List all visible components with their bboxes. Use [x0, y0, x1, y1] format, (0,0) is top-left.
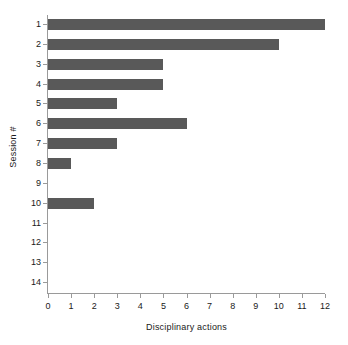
y-tick-4	[43, 84, 47, 85]
x-tick-2	[94, 294, 95, 298]
y-tick-label-7: 7	[36, 137, 41, 149]
bar-row-session-1: 1	[48, 15, 325, 35]
x-tick-10	[279, 294, 280, 298]
y-tick-label-5: 5	[36, 97, 41, 109]
y-tick-label-14: 14	[31, 276, 41, 288]
y-tick-label-1: 1	[36, 18, 41, 30]
bar-row-session-5: 5	[48, 94, 325, 114]
bar-row-session-8: 8	[48, 154, 325, 174]
bar-session-2	[48, 39, 279, 50]
x-tick-3	[117, 294, 118, 298]
bar-session-4	[48, 79, 163, 90]
x-tick-label-9: 9	[244, 301, 268, 311]
y-tick-label-11: 11	[32, 217, 41, 229]
y-tick-label-6: 6	[36, 117, 41, 129]
x-tick-label-5: 5	[151, 301, 175, 311]
y-tick-label-12: 12	[31, 236, 41, 248]
y-tick-3	[43, 64, 47, 65]
y-tick-2	[43, 44, 47, 45]
bar-session-6	[48, 118, 187, 129]
x-tick-0	[48, 294, 49, 298]
x-tick-label-3: 3	[105, 301, 129, 311]
x-tick-5	[163, 294, 164, 298]
bar-row-session-9: 9	[48, 174, 325, 194]
x-tick-12	[325, 294, 326, 298]
y-tick-13	[43, 262, 47, 263]
x-tick-9	[256, 294, 257, 298]
bar-chart-figure: Session # 1234567891011121314 0123456789…	[0, 0, 348, 345]
x-tick-label-2: 2	[82, 301, 106, 311]
bar-session-5	[48, 98, 117, 109]
y-tick-1	[43, 24, 47, 25]
y-tick-label-13: 13	[31, 256, 41, 268]
bar-session-1	[48, 19, 325, 30]
bar-row-session-13: 13	[48, 253, 325, 273]
y-tick-12	[43, 242, 47, 243]
x-tick-label-0: 0	[36, 301, 60, 311]
x-tick-1	[71, 294, 72, 298]
y-tick-8	[43, 163, 47, 164]
x-tick-label-10: 10	[267, 301, 291, 311]
bar-session-7	[48, 138, 117, 149]
bar-row-session-4: 4	[48, 75, 325, 95]
y-tick-11	[43, 223, 47, 224]
y-tick-9	[43, 183, 47, 184]
y-tick-label-2: 2	[36, 38, 41, 50]
x-tick-label-6: 6	[175, 301, 199, 311]
y-axis-title: Session #	[2, 0, 24, 293]
y-tick-label-9: 9	[36, 177, 41, 189]
x-tick-6	[187, 294, 188, 298]
x-tick-label-11: 11	[290, 301, 314, 311]
x-tick-11	[302, 294, 303, 298]
bar-row-session-7: 7	[48, 134, 325, 154]
x-tick-label-4: 4	[128, 301, 152, 311]
y-tick-label-10: 10	[31, 197, 41, 209]
x-tick-label-1: 1	[59, 301, 83, 311]
bar-row-session-2: 2	[48, 35, 325, 55]
y-tick-label-3: 3	[36, 58, 41, 70]
bar-row-session-12: 12	[48, 233, 325, 253]
y-tick-label-8: 8	[36, 157, 41, 169]
x-tick-label-8: 8	[221, 301, 245, 311]
bar-row-session-10: 10	[48, 194, 325, 214]
bar-row-session-14: 14	[48, 273, 325, 293]
bar-row-session-6: 6	[48, 114, 325, 134]
x-tick-8	[233, 294, 234, 298]
y-tick-label-4: 4	[36, 78, 41, 90]
x-tick-7	[210, 294, 211, 298]
y-axis-title-text: Session #	[8, 126, 18, 167]
bar-session-3	[48, 59, 163, 70]
y-tick-6	[43, 123, 47, 124]
x-axis-title: Disciplinary actions	[48, 322, 325, 332]
x-tick-4	[140, 294, 141, 298]
x-tick-label-7: 7	[198, 301, 222, 311]
y-tick-14	[43, 282, 47, 283]
x-tick-label-12: 12	[313, 301, 337, 311]
y-tick-7	[43, 143, 47, 144]
bar-session-8	[48, 158, 71, 169]
y-tick-5	[43, 103, 47, 104]
plot-area: 1234567891011121314 0123456789101112	[48, 15, 325, 293]
y-tick-10	[43, 203, 47, 204]
bar-session-10	[48, 198, 94, 209]
bar-row-session-11: 11	[48, 214, 325, 234]
bar-row-session-3: 3	[48, 55, 325, 75]
